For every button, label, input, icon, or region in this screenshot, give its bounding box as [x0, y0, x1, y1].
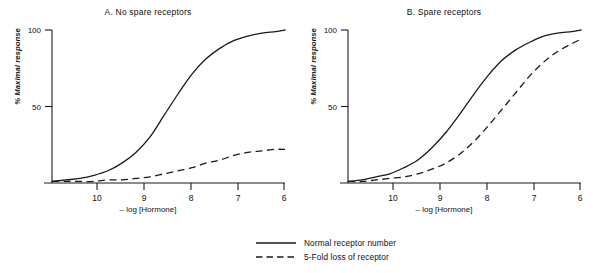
panel-a-curve-normal-receptor-number	[52, 30, 285, 181]
legend-label-5-fold-loss-of-receptor: 5-Fold loss of receptor	[304, 252, 389, 262]
panel-a-x-tick-label-6: 6	[282, 193, 287, 203]
legend-item-5-fold-loss-of-receptor: 5-Fold loss of receptor	[255, 250, 389, 264]
panel-a-plot: 100 50 10 9 8 7 6	[0, 0, 296, 205]
panel-b-x-tick-label-6: 6	[578, 193, 583, 203]
panel-a-x-axis-label: – log [Hormone]	[0, 205, 296, 214]
panel-b-x-tick-label-9: 9	[438, 193, 443, 203]
panel-a: A. No spare receptors % Maximal response…	[0, 0, 296, 228]
panel-a-y-tick-label-50: 50	[32, 103, 41, 112]
panel-b-curve-normal-receptor-number	[348, 30, 581, 181]
panel-b-x-tick-label-10: 10	[388, 193, 398, 203]
panel-b-plot: 100 50 10 9 8 7 6	[296, 0, 592, 205]
panel-b-x-tick-label-7: 7	[532, 193, 537, 203]
panel-b-curve-5-fold-loss-of-receptor	[348, 39, 581, 181]
panel-a-x-tick-label-7: 7	[236, 193, 241, 203]
dashed-line-icon	[255, 252, 297, 262]
legend-label-normal-receptor-number: Normal receptor number	[304, 238, 396, 248]
panel-b-x-axis-label: – log [Hormone]	[296, 205, 592, 214]
panel-b-y-tick-label-50: 50	[328, 103, 337, 112]
panel-a-x-tick-label-8: 8	[189, 193, 194, 203]
panel-b-x-tick-label-8: 8	[485, 193, 490, 203]
figure-legend: Normal receptor number 5-Fold loss of re…	[0, 232, 593, 273]
panel-a-x-tick-label-10: 10	[92, 193, 102, 203]
panel-a-y-tick-label-100: 100	[28, 26, 42, 35]
panel-b-y-tick-label-100: 100	[324, 26, 338, 35]
panel-a-x-tick-label-9: 9	[142, 193, 147, 203]
legend-item-normal-receptor-number: Normal receptor number	[255, 236, 396, 250]
figure-container: A. No spare receptors % Maximal response…	[0, 0, 593, 273]
panel-b: B. Spare receptors % Maximal response 10…	[296, 0, 592, 228]
solid-line-icon	[255, 238, 297, 248]
